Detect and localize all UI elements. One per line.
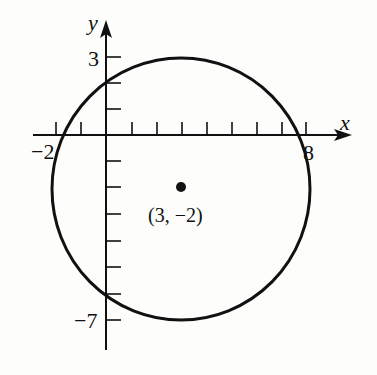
y-ticks (106, 57, 121, 320)
x-tick-label-max: 8 (303, 140, 314, 165)
x-tick-label-min: −2 (31, 139, 54, 164)
y-tick-label-min: −7 (74, 308, 97, 333)
circle-graph: y x 3 −2 8 −7 (3, −2) (0, 0, 377, 375)
y-axis-label: y (86, 10, 98, 35)
center-point (176, 182, 186, 192)
x-axis-label: x (339, 110, 350, 135)
y-tick-label-max: 3 (88, 46, 99, 71)
center-point-label: (3, −2) (148, 204, 203, 227)
x-ticks (56, 122, 306, 135)
